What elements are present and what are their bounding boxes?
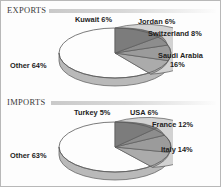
- imports-label-other: Other 63%: [10, 152, 47, 161]
- exports-panel: EXPORTS: [1, 1, 221, 93]
- exports-label-kuwait: Kuwait 6%: [75, 16, 112, 25]
- exports-label-other: Other 64%: [10, 62, 47, 71]
- exports-label-switzerland: Switzerland 8%: [148, 30, 202, 39]
- exports-chart-area: Kuwait 6% Jordan 6% Switzerland 8% Saudi…: [1, 1, 221, 93]
- exports-label-saudi-arabia-value: 16%: [170, 61, 185, 70]
- exports-label-jordan: Jordan 6%: [138, 18, 175, 27]
- imports-label-france: France 12%: [152, 121, 193, 130]
- imports-label-usa: USA 6%: [130, 109, 158, 118]
- chart-figure: EXPORTS: [0, 0, 221, 187]
- imports-label-turkey: Turkey 5%: [74, 109, 110, 118]
- imports-label-italy: Italy 14%: [161, 146, 193, 155]
- imports-chart-area: Turkey 5% USA 6% France 12% Italy 14% Ot…: [1, 93, 221, 187]
- imports-panel: IMPORTS Turkey: [1, 93, 221, 187]
